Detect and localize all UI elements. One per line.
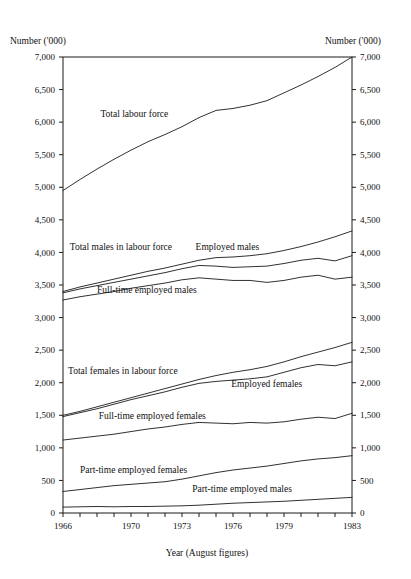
y-tick-label-left: 500 <box>42 476 56 486</box>
x-tick-label: 1979 <box>275 521 294 531</box>
annotation-full-time-employed-females: Full-time employed females <box>99 411 206 421</box>
y-tick-label-left: 7,000 <box>35 52 56 62</box>
y-tick-label-left: 4,000 <box>35 248 56 258</box>
annotation-part-time-employed-males: Part-time employed males <box>192 484 292 494</box>
y-tick-label-left: 5,500 <box>35 150 56 160</box>
y-tick-label-left: 5,000 <box>35 182 56 192</box>
y-tick-label-right: 500 <box>360 476 374 486</box>
x-tick-label: 1970 <box>122 521 141 531</box>
annotation-total-labour-force: Total labour force <box>100 109 168 119</box>
y-tick-label-left: 6,000 <box>35 117 56 127</box>
annotation-full-time-employed-males: Full-time employed males <box>97 285 197 295</box>
annotation-total-males-in-labour-force: Total males in labour force <box>70 242 172 252</box>
y-tick-label-right: 1,500 <box>360 410 381 420</box>
tick-labels: 7,0007,0006,5006,5006,0006,0005,5005,500… <box>35 52 381 531</box>
y-tick-label-right: 6,000 <box>360 117 381 127</box>
series-line-total-males-in-labour-force <box>63 231 352 292</box>
annotation-part-time-employed-females: Part-time employed females <box>80 465 187 475</box>
y-tick-label-right: 0 <box>360 508 365 518</box>
y-tick-label-left: 3,000 <box>35 313 56 323</box>
x-tick-label: 1973 <box>173 521 192 531</box>
y-tick-label-left: 3,500 <box>35 280 56 290</box>
y-axis-title-left: Number ('000) <box>10 36 66 47</box>
series-lines <box>63 57 352 507</box>
y-tick-label-right: 6,500 <box>360 85 381 95</box>
labour-force-line-chart: 7,0007,0006,5006,5006,0006,0005,5005,500… <box>0 0 411 579</box>
y-tick-label-right: 7,000 <box>360 52 381 62</box>
chart-container: 7,0007,0006,5006,5006,0006,0005,5005,500… <box>0 0 411 579</box>
annotation-employed-males: Employed males <box>196 242 260 252</box>
y-tick-label-right: 3,500 <box>360 280 381 290</box>
y-tick-label-right: 5,500 <box>360 150 381 160</box>
y-tick-label-right: 4,500 <box>360 215 381 225</box>
y-tick-label-right: 2,000 <box>360 378 381 388</box>
y-tick-label-right: 1,000 <box>360 443 381 453</box>
y-tick-label-left: 1,500 <box>35 410 56 420</box>
x-tick-label: 1976 <box>224 521 243 531</box>
y-tick-label-right: 2,500 <box>360 345 381 355</box>
x-axis-title: Year (August figures) <box>166 548 248 559</box>
y-tick-label-left: 4,500 <box>35 215 56 225</box>
series-line-part-time-employed-males <box>63 497 352 507</box>
x-tick-label: 1983 <box>343 521 362 531</box>
y-tick-label-right: 4,000 <box>360 248 381 258</box>
y-tick-label-left: 0 <box>51 508 56 518</box>
y-tick-label-left: 1,000 <box>35 443 56 453</box>
series-line-total-labour-force <box>63 57 352 191</box>
series-line-total-females-in-labour-force <box>63 342 352 415</box>
y-tick-label-right: 5,000 <box>360 182 381 192</box>
annotation-employed-females: Employed females <box>231 379 302 389</box>
y-axis-title-right: Number ('000) <box>325 36 381 47</box>
y-tick-label-left: 2,500 <box>35 345 56 355</box>
y-tick-label-left: 6,500 <box>35 85 56 95</box>
annotation-total-females-in-labour-force: Total females in labour force <box>68 366 178 376</box>
y-tick-label-right: 3,000 <box>360 313 381 323</box>
x-tick-label: 1966 <box>54 521 73 531</box>
y-tick-label-left: 2,000 <box>35 378 56 388</box>
